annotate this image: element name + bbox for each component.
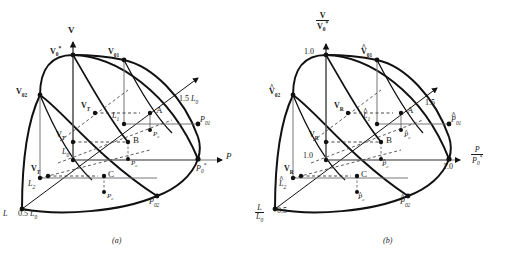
node-pc-1 bbox=[148, 128, 152, 132]
axis-l-denominator: L0 bbox=[255, 212, 264, 223]
ridge-right-upper bbox=[449, 137, 451, 159]
label-p01: P01 bbox=[200, 116, 210, 126]
hat-accent-icon: ^ bbox=[363, 108, 368, 116]
node-v01 bbox=[375, 58, 380, 63]
label-p02-hat: ^P02 bbox=[400, 198, 410, 208]
axis-label-l: L bbox=[3, 210, 7, 218]
label-v0star: V0* bbox=[50, 46, 61, 58]
tick-depth-upper: 1.5 bbox=[425, 99, 435, 107]
node-a bbox=[148, 111, 152, 115]
tick-p-right: 1.0 bbox=[443, 163, 453, 171]
hat-accent-icon: ^ bbox=[451, 112, 456, 120]
tick-depth-lower: 0.5 bbox=[277, 207, 287, 215]
node-b bbox=[126, 140, 130, 144]
label-point-a: A bbox=[156, 106, 163, 115]
edge-left bbox=[275, 95, 293, 209]
label-point-c: C bbox=[108, 170, 114, 179]
panel-a: V P L V0* V01 V02 P01 P0* P02 L1 L0 L2 V… bbox=[0, 0, 253, 255]
label-vr-3: VR bbox=[284, 165, 294, 175]
label-pc-3: Pc bbox=[107, 193, 113, 202]
label-pc-3-hat: ^Pc bbox=[358, 194, 364, 203]
label-point-b: B bbox=[133, 136, 139, 145]
label-p01-hat: ^P01 bbox=[451, 116, 461, 126]
label-v02: V02 bbox=[16, 88, 27, 98]
node-l1 bbox=[122, 122, 126, 126]
axis-label-p-norm: P P0* bbox=[471, 146, 483, 167]
axis-v-denominator: V0* bbox=[316, 20, 329, 33]
figure-container: V P L V0* V01 V02 P01 P0* P02 L1 L0 L2 V… bbox=[0, 0, 507, 255]
node-v02 bbox=[291, 93, 296, 98]
node-b bbox=[379, 140, 383, 144]
tick-v-top: 1.0 bbox=[304, 48, 314, 56]
label-point-a: A bbox=[407, 106, 414, 115]
ridge-top-left bbox=[40, 55, 73, 95]
label-pc-2: Pc bbox=[131, 160, 137, 169]
panel-b-graphics bbox=[253, 0, 506, 232]
node-v01 bbox=[122, 58, 127, 63]
node-p0star bbox=[195, 156, 200, 161]
axis-l-numerator: L bbox=[255, 204, 264, 212]
ridge-top-left bbox=[293, 55, 326, 95]
hat-accent-icon: ^ bbox=[382, 158, 386, 165]
tick-depth-upper: 1.5 L0 bbox=[179, 95, 198, 105]
label-vt-1: VT bbox=[81, 102, 90, 112]
axis-label-p: P bbox=[226, 152, 232, 161]
axis-v-numerator: V bbox=[316, 12, 329, 20]
node-vr-2 bbox=[324, 140, 328, 144]
hat-accent-icon: ^ bbox=[362, 44, 367, 52]
curve-l2 bbox=[293, 95, 408, 196]
label-v02-hat: ^V02 bbox=[269, 88, 280, 98]
label-l0: L0 bbox=[62, 148, 69, 158]
label-vt-2: VT bbox=[56, 131, 65, 141]
label-v01: V01 bbox=[108, 48, 119, 58]
panel-b: V V0* P P0* L L0 1.0 1.0 1.0 1.5 0.5 ^V0… bbox=[253, 0, 506, 255]
dash-depth-1 bbox=[313, 90, 381, 141]
node-l0 bbox=[324, 158, 328, 162]
label-l1: L1 bbox=[112, 112, 119, 122]
label-l2-hat: ^L2 bbox=[279, 180, 286, 190]
node-p0star bbox=[446, 156, 451, 161]
curve-l1 bbox=[377, 60, 449, 137]
label-vr-2: VR bbox=[309, 131, 319, 141]
label-pc-2-hat: ^Pc bbox=[382, 161, 388, 170]
node-v02 bbox=[38, 93, 43, 98]
ridge-right-lower bbox=[157, 159, 198, 196]
label-point-b: B bbox=[386, 136, 392, 145]
edge-left bbox=[22, 95, 40, 209]
label-p02: P02 bbox=[149, 198, 159, 208]
node-vt-2 bbox=[71, 140, 75, 144]
label-p0star: P0* bbox=[196, 163, 206, 175]
tick-v-mid: 1.0 bbox=[303, 152, 313, 160]
axis-label-v-norm: V V0* bbox=[316, 12, 329, 33]
node-l2 bbox=[291, 176, 295, 180]
curve-bottom bbox=[275, 196, 408, 212]
node-a bbox=[399, 111, 403, 115]
hat-accent-icon: ^ bbox=[358, 191, 362, 198]
axis-label-v: V bbox=[68, 26, 75, 35]
node-pc-2 bbox=[126, 157, 130, 161]
label-vr-1: VR bbox=[334, 102, 344, 112]
hat-accent-icon: ^ bbox=[404, 129, 408, 136]
hat-accent-icon: ^ bbox=[270, 84, 275, 92]
axis-p-numerator: P bbox=[471, 146, 483, 154]
node-c bbox=[355, 174, 359, 178]
node-vr-3 bbox=[299, 174, 303, 178]
node-vt-1 bbox=[93, 111, 97, 115]
node-c bbox=[102, 174, 106, 178]
caption-a: (a) bbox=[112, 236, 121, 245]
panel-a-graphics bbox=[0, 0, 253, 232]
label-point-c: C bbox=[361, 170, 367, 179]
hat-accent-icon: ^ bbox=[400, 194, 405, 202]
tick-depth-lower: 0.5 L0 bbox=[18, 210, 37, 220]
axis-label-l-norm: L L0 bbox=[255, 204, 264, 223]
node-pc-1 bbox=[399, 128, 403, 132]
node-l0 bbox=[71, 158, 75, 162]
label-pc-1-hat: ^Pc bbox=[404, 132, 410, 141]
node-vt-3 bbox=[46, 174, 50, 178]
node-v0star bbox=[71, 53, 76, 58]
label-l2: L2 bbox=[28, 180, 35, 190]
node-vr-1 bbox=[346, 111, 350, 115]
node-l2 bbox=[38, 176, 42, 180]
axis-p-denominator: P0* bbox=[471, 154, 483, 167]
hat-accent-icon: ^ bbox=[279, 176, 284, 184]
